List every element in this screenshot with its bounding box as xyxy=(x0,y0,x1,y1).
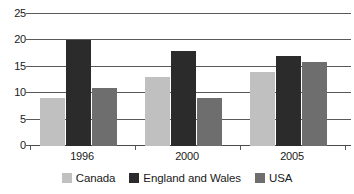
x-tick-mark-1 xyxy=(135,146,136,150)
bar-canada-2000 xyxy=(145,77,170,146)
bar-england-and-wales-1996 xyxy=(66,40,91,146)
y-tick-label-5: 5 xyxy=(4,114,26,125)
bar-england-and-wales-2000 xyxy=(171,51,196,146)
x-tick-mark-3 xyxy=(345,146,346,150)
bar-usa-2000 xyxy=(197,98,222,146)
legend-item-england-and-wales: England and Wales xyxy=(129,172,241,184)
y-tick-label-25: 25 xyxy=(4,8,26,19)
y-axis-labels: 25 20 15 10 5 0 xyxy=(0,13,26,146)
legend-swatch-canada xyxy=(62,173,72,183)
legend-item-canada: Canada xyxy=(62,172,116,184)
legend-label-usa: USA xyxy=(269,172,292,184)
y-tick-label-15: 15 xyxy=(4,61,26,72)
x-tick-mark-2 xyxy=(240,146,241,150)
plot-area xyxy=(29,13,351,146)
y-tick-label-10: 10 xyxy=(4,87,26,98)
legend-label-canada: Canada xyxy=(76,172,116,184)
x-category-label-1996: 1996 xyxy=(47,150,117,163)
legend-item-usa: USA xyxy=(255,172,292,184)
bar-chart: 25 20 15 10 5 0 xyxy=(0,0,354,194)
bar-canada-1996 xyxy=(40,98,65,146)
legend-swatch-usa xyxy=(255,173,265,183)
legend-swatch-england-and-wales xyxy=(129,173,139,183)
legend-label-england-and-wales: England and Wales xyxy=(143,172,241,184)
y-tick-label-0: 0 xyxy=(4,140,26,151)
chart-legend: Canada England and Wales USA xyxy=(0,172,354,194)
gridline-25 xyxy=(29,13,351,14)
x-tick-mark-0 xyxy=(30,146,31,150)
bar-usa-2005 xyxy=(302,62,327,146)
bar-usa-1996 xyxy=(92,88,117,146)
bar-england-and-wales-2005 xyxy=(276,56,301,146)
bar-canada-2005 xyxy=(250,72,275,146)
y-tick-label-20: 20 xyxy=(4,34,26,45)
x-category-label-2000: 2000 xyxy=(152,150,222,163)
x-category-label-2005: 2005 xyxy=(257,150,327,163)
